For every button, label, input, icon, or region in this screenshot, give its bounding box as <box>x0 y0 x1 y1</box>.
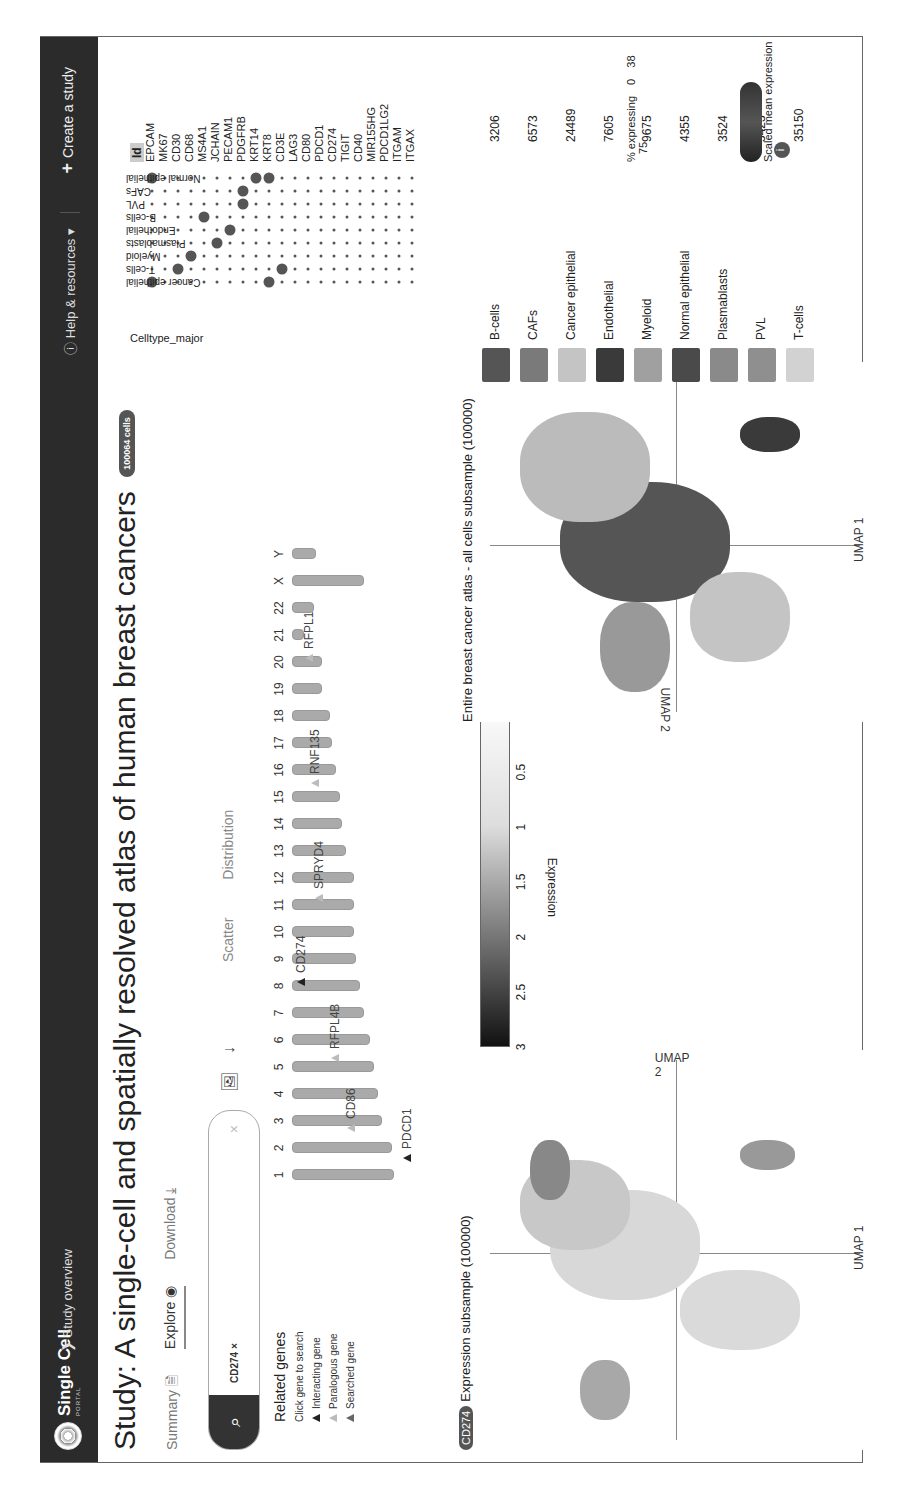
gene-search-box[interactable]: ⌕ CD274 × × <box>208 1110 260 1450</box>
legend-item-cafs[interactable]: CAFs6573 <box>520 348 548 382</box>
dotplot-dot <box>242 281 245 284</box>
dotplot-dot <box>294 216 297 219</box>
dotplot-dot <box>411 177 414 180</box>
cluster-blob <box>600 602 670 692</box>
image-export-icon[interactable]: 🖼 <box>220 1072 239 1092</box>
dotplot-gene-label: KRT8 <box>261 134 273 162</box>
chromosome-6: 6 <box>272 1033 370 1047</box>
expression-scatter-plot[interactable]: UMAP 1 UMAP 2 <box>480 1050 870 1450</box>
gene-marker-rfpl4b[interactable]: RFPL4B <box>328 1004 342 1062</box>
legend-count: 24489 <box>564 109 578 142</box>
legend-label: Interacting gene <box>311 1337 322 1409</box>
help-resources-menu[interactable]: ⓘ Help & resources ▾ <box>60 212 80 355</box>
dotplot[interactable]: Celltype_major EPCAMMK67CD30CD68MS4A1JCH… <box>130 42 450 312</box>
gene-marker-cd86[interactable]: CD86 <box>344 1088 358 1132</box>
dotplot-dot <box>372 203 375 206</box>
dotplot-dot <box>268 216 271 219</box>
plot-actions: 🖼 ↓ <box>220 1046 239 1092</box>
gene-marker-cd274[interactable]: CD274 <box>294 936 308 986</box>
dotplot-dot <box>359 281 362 284</box>
dotplot-dot <box>190 268 193 271</box>
chr-bar <box>292 1170 394 1181</box>
triangle-icon <box>312 1414 320 1422</box>
chr-label: 9 <box>272 952 286 966</box>
chr-label: 19 <box>272 682 286 696</box>
dotplot-dot <box>333 268 336 271</box>
dotplot-dot <box>294 242 297 245</box>
chr-label: 20 <box>272 655 286 669</box>
clear-search-icon[interactable]: × <box>226 1125 242 1133</box>
cluster-scatter-plot[interactable]: UMAP 1 UMAP 2 <box>480 362 870 722</box>
cluster-blob <box>740 1140 795 1170</box>
legend-count: 7605 <box>602 115 616 142</box>
search-button[interactable]: ⌕ <box>209 1395 259 1449</box>
dotplot-dot <box>264 173 275 184</box>
chr-bar <box>292 684 322 695</box>
tab-scatter[interactable]: Scatter <box>220 918 236 962</box>
triangle-icon <box>329 1414 337 1422</box>
dotplot-dot <box>398 242 401 245</box>
chromosome-18: 18 <box>272 709 330 723</box>
chr-label: 6 <box>272 1033 286 1047</box>
dotplot-dot <box>359 190 362 193</box>
dotplot-dot <box>320 190 323 193</box>
legend-swatch <box>558 348 586 382</box>
gene-marker-spryd4[interactable]: SPRYD4 <box>312 841 326 902</box>
tick: 38 <box>625 55 637 67</box>
size-legend: % expressing 0 38 75 <box>625 37 649 162</box>
arrow-down-icon[interactable]: ↓ <box>220 1046 239 1054</box>
legend-item-normal-epithelial[interactable]: Normal epithelial4355 <box>672 348 700 382</box>
gene-marker-pdcd1[interactable]: PDCD1 <box>400 1108 414 1162</box>
legend-item-endothelial[interactable]: Endothelial7605 <box>596 348 624 382</box>
dotplot-gene-label: PECAM1 <box>222 117 234 162</box>
legend-item-b-cells[interactable]: B-cells3206 <box>482 348 510 382</box>
gene-marker-rnf135[interactable]: RNF135 <box>308 729 322 787</box>
dotplot-dot <box>268 268 271 271</box>
dotplot-dot <box>203 177 206 180</box>
dotplot-dot <box>385 203 388 206</box>
legend-item-cancer-epithelial[interactable]: Cancer epithelial24489 <box>558 348 586 382</box>
info-icon[interactable]: i <box>774 142 790 158</box>
chr-label: Y <box>272 547 286 561</box>
dotplot-dot <box>333 229 336 232</box>
legend-item-pvl[interactable]: PVL5423 <box>748 348 776 382</box>
gene-chip-cd274[interactable]: CD274 × <box>229 1343 240 1383</box>
dotplot-dot <box>346 281 349 284</box>
dotplot-dot <box>255 190 258 193</box>
tab-distribution[interactable]: Distribution <box>220 810 236 880</box>
summary-doc-icon: 🗎 <box>164 1375 180 1386</box>
dotplot-dot <box>229 268 232 271</box>
dotplot-dot <box>242 216 245 219</box>
dotplot-dot <box>216 281 219 284</box>
legend-name: CAFs <box>526 310 540 340</box>
dotplot-dot <box>320 255 323 258</box>
chr-label: 22 <box>272 601 286 615</box>
legend-item-plasmablasts[interactable]: Plasmablasts3524 <box>710 348 738 382</box>
x-axis-label: UMAP 1 <box>852 1226 866 1270</box>
dotplot-dot <box>229 190 232 193</box>
chromosome-13: 13 <box>272 844 346 858</box>
dotplot-dot <box>346 203 349 206</box>
tab-summary[interactable]: Summary 🗎 <box>162 1375 186 1450</box>
legend-item-myeloid[interactable]: Myeloid9675 <box>634 348 662 382</box>
chip-remove-icon[interactable]: × <box>229 1343 240 1349</box>
create-study-button[interactable]: +Create a study <box>57 67 78 174</box>
tab-explore[interactable]: Explore ◉ <box>162 1286 186 1349</box>
dotplot-dot <box>164 216 167 219</box>
legend-item-t-cells[interactable]: T-cells35150 <box>786 348 814 382</box>
tab-download[interactable]: Download ⤓ <box>162 1188 186 1260</box>
logo-subtext: PORTAL <box>75 1329 81 1416</box>
dotplot-dot <box>255 203 258 206</box>
breadcrumb[interactable]: ❯ Study overview <box>60 1249 75 1352</box>
gene-marker-rfpl1[interactable]: RFPL1 <box>302 612 316 662</box>
dotplot-gene-label: MK67 <box>157 133 169 162</box>
triangle-icon <box>403 1154 411 1162</box>
dotplot-dot <box>190 203 193 206</box>
dotplot-dot <box>372 190 375 193</box>
chromosome-10: 10 <box>272 925 354 939</box>
chr-label: 16 <box>272 763 286 777</box>
legend-count: 6573 <box>526 115 540 142</box>
help-label: Help & resources <box>63 239 78 339</box>
dotplot-dot <box>281 177 284 180</box>
dotplot-dot <box>320 216 323 219</box>
